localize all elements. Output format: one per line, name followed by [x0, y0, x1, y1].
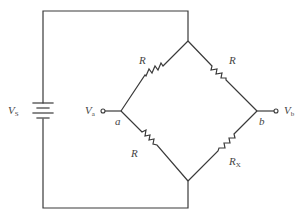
resistor-bottom-left-label: R — [130, 147, 138, 159]
resistor-top-left — [121, 41, 188, 111]
battery-icon — [33, 103, 53, 118]
resistor-top-left-label: R — [138, 54, 146, 66]
bottom-wire — [43, 119, 188, 208]
terminal-vb-label: Vb — [284, 104, 295, 118]
node-a-label: a — [115, 115, 121, 127]
terminal-va-label: Va — [85, 104, 96, 118]
terminal-vb — [274, 109, 278, 113]
source-label: VS — [8, 104, 19, 118]
resistor-bottom-right-label: RX — [228, 155, 241, 169]
resistor-top-right-label: R — [228, 54, 236, 66]
resistor-top-right — [188, 41, 257, 111]
node-b-label: b — [259, 115, 265, 127]
resistor-bottom-right — [188, 111, 257, 181]
top-wire — [43, 11, 188, 103]
resistor-bottom-left — [121, 111, 188, 181]
bridge-circuit-diagram: VS R R R RX Va a Vb b — [0, 0, 304, 220]
terminal-va — [101, 109, 105, 113]
